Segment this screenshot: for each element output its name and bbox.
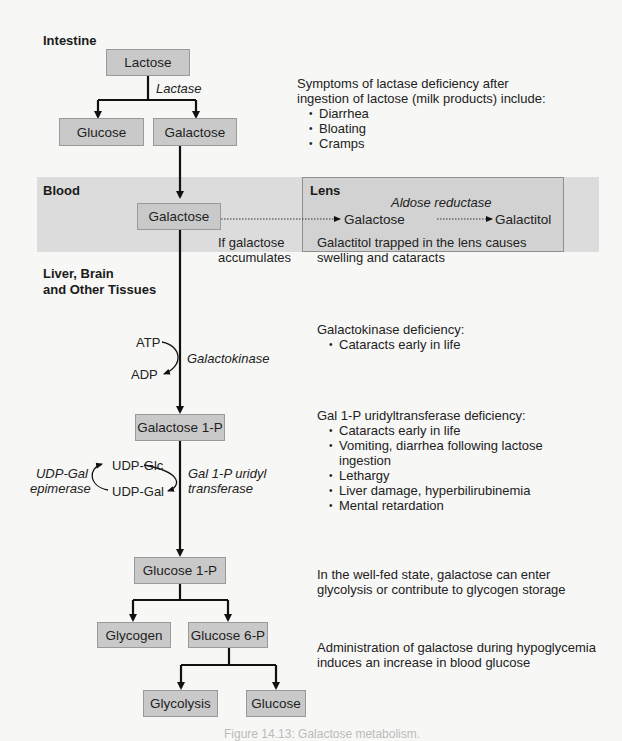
symptom-item: Diarrhea [297,106,369,121]
cofactor-udp-gal: UDP-Gal [112,484,164,499]
region-label-liver-line2: and Other Tissues [43,282,156,298]
enzyme-epimerase: UDP-Gal epimerase [30,466,88,496]
node-galactose-lens: Galactose [344,212,405,227]
node-glucose-1p: Glucose 1-P [134,557,226,584]
symptom-continuation-text: ingestion [339,453,391,468]
note-lens-cataracts: Galactitol trapped in the lens causes sw… [317,235,527,265]
region-label-lens: Lens [310,183,340,199]
symptom-item: Mental retardation [317,498,543,513]
symptom-item-continuation: ingestion [317,453,543,468]
note-lactase-line1: Symptoms of lactase deficiency after [297,76,546,91]
lactase-symptom-list: Diarrhea Bloating Cramps [297,106,369,151]
region-label-intestine: Intestine [43,33,96,49]
cofactor-udp-glc: UDP-Glc [112,458,163,473]
note-lactase-line2: ingestion of lactose (milk products) inc… [297,91,546,106]
enzyme-lactase: Lactase [156,81,202,96]
symptom-item: Liver damage, hyperbilirubinemia [317,483,543,498]
galactokinase-symptom-list: Cataracts early in life [317,337,460,352]
figure-caption: Figure 14.13: Galactose metabolism. [224,727,420,741]
note-hypoglycemia-line1: Administration of galactose during hypog… [317,640,596,655]
node-glucose-bottom: Glucose [246,690,306,717]
node-galactose-blood: Galactose [137,203,221,230]
symptom-item: Bloating [297,121,369,136]
node-galactose-1p: Galactose 1-P [135,414,225,441]
enzyme-galactokinase: Galactokinase [187,351,269,366]
cofactor-atp: ATP [136,335,160,350]
note-transferase-deficiency: Gal 1-P uridyltransferase deficiency: [317,408,526,423]
region-label-liver-line1: Liver, Brain [43,266,156,282]
note-lactase-deficiency: Symptoms of lactase deficiency after ing… [297,76,546,106]
note-well-fed-line2: glycolysis or contribute to glycogen sto… [317,582,566,597]
node-glycolysis: Glycolysis [143,690,218,717]
note-well-fed: In the well-fed state, galactose can ent… [317,567,566,597]
enzyme-epimerase-line2: epimerase [30,481,88,496]
node-galactose-intestine: Galactose [153,118,237,146]
symptom-item: Vomiting, diarrhea following lactose [317,438,543,453]
symptom-item: Cataracts early in life [317,337,460,352]
symptom-item: Cramps [297,136,369,151]
region-label-liver: Liver, Brain and Other Tissues [43,266,156,298]
enzyme-uridyltransferase-line1: Gal 1-P uridyl [188,466,266,481]
region-label-blood: Blood [43,183,80,199]
note-lens-line1: Galactitol trapped in the lens causes [317,235,527,250]
note-galactose-accumulates: If galactose accumulates [218,235,291,265]
note-hypoglycemia-line2: induces an increase in blood glucose [317,655,596,670]
note-accumulates-line2: accumulates [218,250,291,265]
symptom-item: Lethargy [317,468,543,483]
cofactor-adp: ADP [131,367,158,382]
enzyme-aldose-reductase: Aldose reductase [391,195,491,210]
note-hypoglycemia: Administration of galactose during hypog… [317,640,596,670]
note-galactokinase-deficiency: Galactokinase deficiency: [317,322,464,337]
enzyme-uridyltransferase: Gal 1-P uridyl transferase [188,466,266,496]
note-well-fed-line1: In the well-fed state, galactose can ent… [317,567,566,582]
note-accumulates-line1: If galactose [218,235,291,250]
node-galactitol: Galactitol [495,212,551,227]
node-glucose-6p: Glucose 6-P [188,622,268,648]
enzyme-uridyltransferase-line2: transferase [188,481,266,496]
node-glycogen: Glycogen [97,622,171,648]
symptom-item: Cataracts early in life [317,423,543,438]
transferase-symptom-list: Cataracts early in life Vomiting, diarrh… [317,423,543,513]
node-glucose-intestine: Glucose [59,118,144,146]
enzyme-epimerase-line1: UDP-Gal [30,466,88,481]
node-lactose: Lactose [106,49,190,76]
note-lens-line2: swelling and cataracts [317,250,527,265]
